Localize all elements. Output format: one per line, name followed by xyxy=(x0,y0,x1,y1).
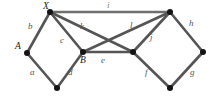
edge-label-b: b xyxy=(28,22,33,31)
vertex-R xyxy=(130,49,136,55)
vertex-E xyxy=(200,49,206,55)
edge-label-h: h xyxy=(189,19,194,28)
edge-label-i: i xyxy=(107,1,110,10)
vertex-label-X: X xyxy=(43,2,49,12)
edge-f xyxy=(133,52,170,88)
vertex-label-A: A xyxy=(15,42,21,52)
edge-l xyxy=(83,12,170,52)
edge-label-g: g xyxy=(190,68,195,77)
edges-group xyxy=(27,12,203,88)
edge-label-j: j xyxy=(150,33,153,42)
edge-k xyxy=(50,12,133,52)
vertex-label-B: B xyxy=(80,56,86,66)
vertex-BR xyxy=(167,85,173,91)
edge-label-l: l xyxy=(130,21,133,30)
edge-label-a: a xyxy=(30,68,35,77)
edge-label-e: e xyxy=(101,56,105,65)
vertex-BL xyxy=(54,85,60,91)
edge-c xyxy=(50,12,83,52)
edge-label-c: c xyxy=(60,36,64,45)
graph-canvas xyxy=(0,0,220,104)
graph-figure: abcdefghijklXAB xyxy=(0,0,220,104)
edge-label-k: k xyxy=(80,22,84,31)
edge-h xyxy=(170,12,203,52)
edge-label-d: d xyxy=(68,68,73,77)
edge-g xyxy=(170,52,203,88)
edge-label-f: f xyxy=(145,68,148,77)
vertex-T xyxy=(167,9,173,15)
edge-b xyxy=(27,12,50,53)
vertex-A xyxy=(24,50,30,56)
